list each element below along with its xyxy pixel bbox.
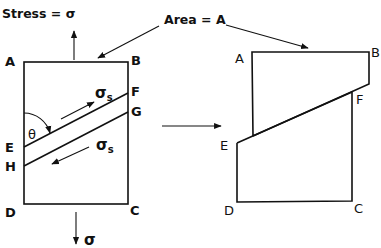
left-point-e: E <box>5 140 14 155</box>
left-corner-b: B <box>131 53 141 68</box>
left-corner-d: D <box>5 205 16 220</box>
sigma-s-upper-label: σs <box>95 84 113 103</box>
right-point-f: F <box>356 92 363 107</box>
left-corner-a: A <box>5 54 15 69</box>
left-point-f: F <box>131 84 140 99</box>
theta-label: θ <box>28 127 36 142</box>
shear-slip-diagram: Stress = σ Area = A σ θ σs σs A B F G E … <box>0 0 381 248</box>
shear-arrow-lower <box>52 147 89 164</box>
right-corner-d: D <box>224 203 234 218</box>
area-arrow-right <box>226 25 308 48</box>
sigma-s-lower-label: σs <box>96 136 114 155</box>
right-specimen: A B F E D C <box>220 45 380 218</box>
right-corner-c: C <box>354 201 363 216</box>
shear-arrow-upper <box>61 102 94 119</box>
left-specimen-outline <box>24 62 128 204</box>
sigma-bottom-label: σ <box>84 231 96 248</box>
right-lower-block <box>237 92 352 202</box>
left-point-h: H <box>5 159 16 174</box>
right-corner-b: B <box>371 45 380 60</box>
left-corner-c: C <box>130 203 140 218</box>
right-point-e: E <box>220 138 228 153</box>
left-point-g: G <box>131 104 142 119</box>
left-specimen: θ σs σs A B F G E H D C <box>5 53 142 220</box>
stress-label: Stress = σ <box>2 6 76 21</box>
right-corner-a: A <box>235 51 244 66</box>
area-arrow-left <box>98 26 159 58</box>
area-label: Area = A <box>164 12 226 27</box>
